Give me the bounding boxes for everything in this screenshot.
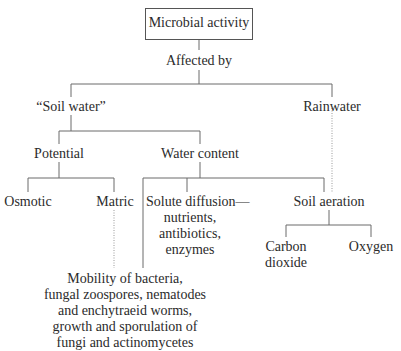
matric-node: Matric bbox=[90, 194, 140, 210]
affected-by-label: Affected by bbox=[149, 53, 249, 69]
mobility-line3: and enchytraeid worms, bbox=[40, 303, 210, 319]
mobility-line1: Mobility of bacteria, bbox=[40, 271, 210, 287]
osmotic-node: Osmotic bbox=[0, 194, 56, 210]
rainwater-node: Rainwater bbox=[292, 99, 372, 115]
carbon-dioxide-line2: dioxide bbox=[261, 255, 311, 271]
mobility-line4: growth and sporulation of bbox=[40, 319, 210, 335]
mobility-line5: fungi and actinomycetes bbox=[40, 335, 210, 351]
oxygen-node: Oxygen bbox=[346, 239, 396, 255]
solute-diffusion-line1: Solute diffusion— bbox=[146, 194, 250, 210]
mobility-line2: fungal zoospores, nematodes bbox=[40, 287, 210, 303]
soil-water-node: “Soil water” bbox=[21, 99, 121, 115]
root-label: Microbial activity bbox=[145, 15, 253, 31]
solute-diffusion-line3: antibiotics, bbox=[150, 226, 230, 242]
potential-node: Potential bbox=[19, 146, 99, 162]
soil-aeration-node: Soil aeration bbox=[284, 194, 374, 210]
water-content-node: Water content bbox=[150, 146, 250, 162]
solute-diffusion-line2: nutrients, bbox=[150, 210, 230, 226]
solute-diffusion-line4: enzymes bbox=[150, 242, 230, 258]
carbon-dioxide-line1: Carbon bbox=[261, 239, 311, 255]
